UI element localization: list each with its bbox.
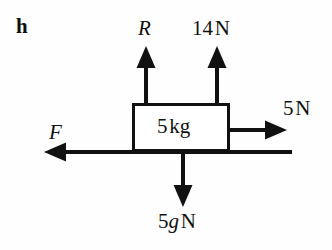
force-label-5N-magnitude: 5	[283, 96, 294, 120]
force-label-5N: 5 N	[283, 98, 310, 119]
force-arrow-F-head	[44, 143, 66, 162]
force-arrow-R	[137, 46, 156, 104]
force-arrow-weight	[174, 151, 193, 207]
force-arrow-14N	[208, 46, 227, 104]
force-label-R: R	[138, 18, 151, 39]
force-arrow-weight-head	[174, 185, 193, 207]
force-arrow-R-head	[137, 46, 156, 68]
force-label-14N-magnitude: 14	[192, 16, 213, 40]
force-label-weight: 5g N	[158, 211, 196, 232]
part-label: h	[16, 16, 28, 37]
force-label-14N: 14 N	[192, 18, 230, 39]
force-label-weight-coefficient: 5	[158, 209, 169, 233]
force-diagram-container: h R 14 N 5 N F 5g N 5 kg	[0, 0, 332, 250]
force-arrow-5N-head	[265, 121, 287, 140]
force-label-weight-symbol: g	[169, 209, 180, 233]
mass-block-label-magnitude: 5	[157, 114, 168, 138]
mass-block-label-unit: kg	[169, 114, 190, 138]
force-label-weight-unit: N	[181, 209, 196, 233]
force-arrow-14N-head	[208, 46, 227, 68]
force-arrow-5N	[229, 121, 287, 140]
mass-block-label: 5 kg	[157, 116, 190, 137]
force-label-F: F	[49, 122, 62, 143]
force-label-5N-unit: N	[295, 96, 310, 120]
force-label-14N-unit: N	[215, 16, 230, 40]
